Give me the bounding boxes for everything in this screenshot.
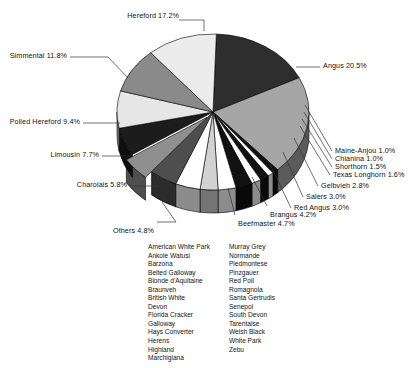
others-breed-item: Romagnola (229, 286, 275, 295)
pie-slice-side-texas-longhorn (252, 180, 261, 207)
others-breed-item: Florida Cracker (148, 311, 210, 320)
others-breed-item: Normande (229, 252, 275, 261)
slice-label-gelbvieh: Gelbvieh 2.8% (321, 182, 369, 190)
others-breed-item: Galloway (148, 320, 210, 329)
pie-slice-side-shorthorn (261, 176, 269, 203)
others-breed-item: Senepol (229, 303, 275, 312)
others-breed-item: Marchigiana (148, 354, 210, 363)
others-breed-item: Piedmontese (229, 260, 275, 269)
others-breed-item: Hays Converter (148, 328, 210, 337)
slice-label-charolais: Charolais 5.8% (13, 181, 127, 189)
slice-label-simmental: Simmental 11.8% (0, 52, 67, 60)
others-breed-item: Highland (148, 346, 210, 355)
slice-label-limousin: Limousin 7.7% (0, 151, 99, 159)
others-breed-item: Red Poll (229, 277, 275, 286)
others-breed-item: White Park (229, 337, 275, 346)
slice-label-others: Others 4.8% (40, 227, 154, 235)
slice-label-texas-longhorn: Texas Longhorn 1.6% (333, 171, 404, 179)
slice-label-hereford: Hereford 17.2% (62, 12, 179, 20)
others-breed-item: Santa Gertrudis (229, 294, 275, 303)
others-breed-item: Welsh Black (229, 328, 275, 337)
others-breed-item: American White Park (148, 243, 210, 252)
others-breed-item: Devon (148, 303, 210, 312)
others-breed-item: Braunveh (148, 286, 210, 295)
others-breed-item: Barzona (148, 260, 210, 269)
others-breed-column-left: American White ParkAnkole WatusiBarzonaB… (148, 243, 210, 363)
slice-label-angus: Angus 20.5% (323, 62, 367, 70)
slice-label-polled-hereford: Polled Hereford 9.4% (0, 118, 80, 126)
others-breed-item: Blonde d'Aquitaine (148, 277, 210, 286)
others-breed-item: Pinzgauer (229, 269, 275, 278)
others-breed-item: Belted Galloway (148, 269, 210, 278)
leader-line-simmental (70, 57, 128, 78)
pie-chart-figure: Hereford 17.2% Angus 20.5% Maine-Anjou 1… (0, 0, 418, 368)
others-breed-item: British White (148, 294, 210, 303)
pie-slice-side-chianina (268, 173, 273, 199)
others-breed-item: Murray Grey (229, 243, 275, 252)
pie-slice-side-red-angus (200, 189, 218, 213)
others-breed-list: American White ParkAnkole WatusiBarzonaB… (148, 243, 348, 363)
others-breed-item: Zebu (229, 346, 275, 355)
slice-label-salers: Salers 3.0% (306, 193, 346, 201)
others-breed-item: South Devon (229, 311, 275, 320)
others-breed-item: Tarentaise (229, 320, 275, 329)
others-breed-item: Herens (148, 337, 210, 346)
others-breed-column-right: Murray GreyNormandePiedmontesePinzgauerR… (229, 243, 275, 363)
pie-slice-side-maine-anjou (273, 170, 278, 196)
leader-line-hereford (179, 20, 204, 31)
slice-label-beefmaster: Beefmaster 4.7% (238, 220, 295, 228)
others-breed-item: Ankole Watusi (148, 252, 210, 261)
